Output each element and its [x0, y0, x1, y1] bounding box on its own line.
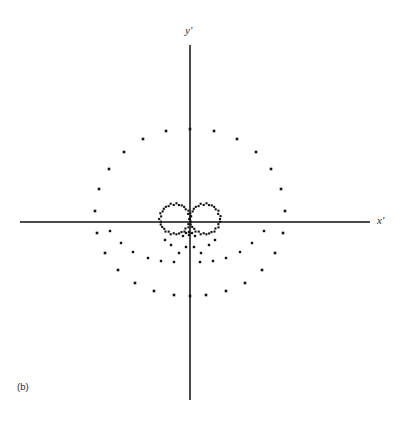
data-point: [192, 210, 194, 212]
data-point: [165, 206, 167, 208]
data-point: [189, 128, 192, 131]
data-point: [251, 242, 253, 244]
data-point: [190, 221, 192, 223]
data-point: [188, 231, 190, 233]
data-point: [220, 215, 222, 217]
data-point: [190, 223, 192, 225]
data-point: [142, 138, 145, 141]
scatter-plot-canvas: [0, 0, 401, 429]
data-point: [200, 203, 202, 205]
data-point: [104, 252, 107, 255]
data-point: [205, 233, 207, 235]
data-point: [261, 269, 264, 272]
data-point: [213, 231, 215, 233]
data-point: [239, 251, 241, 253]
data-point: [109, 230, 111, 232]
data-point: [120, 242, 122, 244]
data-point: [163, 208, 165, 210]
data-point: [108, 168, 111, 171]
data-point: [203, 204, 205, 206]
data-point: [200, 233, 202, 235]
data-point: [189, 212, 191, 214]
data-point: [161, 226, 163, 228]
data-point: [225, 290, 228, 293]
data-point: [187, 210, 189, 212]
data-point: [215, 208, 217, 210]
data-point: [187, 223, 189, 225]
data-point: [170, 244, 172, 246]
data-point: [270, 168, 273, 171]
data-point: [96, 232, 99, 235]
data-point: [160, 215, 162, 217]
data-point: [208, 244, 210, 246]
data-point: [163, 228, 165, 230]
x-axis-label: x': [377, 214, 385, 226]
data-point: [198, 231, 200, 233]
data-point: [164, 231, 166, 233]
data-point: [168, 205, 170, 207]
data-point: [173, 204, 175, 206]
data-point: [181, 204, 183, 206]
data-point: [188, 234, 190, 236]
data-point: [193, 208, 195, 210]
data-point: [132, 251, 134, 253]
data-point: [183, 206, 185, 208]
data-point: [158, 218, 160, 220]
data-point: [199, 261, 201, 263]
y-axis-label: y': [185, 24, 193, 36]
data-point: [217, 210, 219, 212]
data-point: [185, 246, 187, 248]
data-point: [217, 223, 219, 225]
data-point: [282, 232, 285, 235]
data-point: [208, 204, 210, 206]
data-point: [198, 205, 200, 207]
data-point: [160, 221, 162, 223]
data-point: [147, 257, 149, 259]
data-point: [117, 269, 120, 272]
data-point: [178, 232, 180, 234]
data-point: [208, 232, 210, 234]
data-point: [200, 252, 202, 254]
data-point: [236, 138, 239, 141]
data-point: [178, 204, 180, 206]
data-point: [173, 232, 175, 234]
data-point: [214, 227, 216, 229]
data-point: [187, 213, 189, 215]
data-point: [178, 252, 180, 254]
data-point: [170, 203, 172, 205]
data-point: [170, 233, 172, 235]
data-point: [160, 260, 162, 262]
data-point: [255, 151, 258, 154]
data-point: [191, 232, 193, 234]
data-point: [185, 232, 187, 234]
data-point: [191, 226, 193, 228]
data-point: [134, 282, 137, 285]
data-point: [195, 206, 197, 208]
panel-caption: (b): [17, 381, 29, 392]
data-point: [263, 230, 265, 232]
data-point: [160, 223, 162, 225]
data-point: [168, 231, 170, 233]
data-point: [280, 188, 283, 191]
data-point: [188, 218, 190, 220]
data-point: [182, 235, 184, 237]
data-point: [173, 294, 176, 297]
data-point: [274, 252, 277, 255]
data-point: [159, 212, 161, 214]
data-point: [194, 231, 196, 233]
data-point: [175, 202, 177, 204]
data-point: [98, 188, 101, 191]
data-point: [185, 208, 187, 210]
data-point: [214, 239, 216, 241]
data-point: [213, 130, 216, 133]
data-point: [244, 282, 247, 285]
data-point: [194, 235, 196, 237]
figure-panel-b: y' x' (b): [0, 0, 401, 429]
data-point: [162, 210, 164, 212]
data-point: [193, 228, 195, 230]
data-point: [219, 221, 221, 223]
data-point: [217, 226, 219, 228]
data-point: [193, 246, 195, 248]
data-point: [190, 215, 192, 217]
data-point: [203, 232, 205, 234]
